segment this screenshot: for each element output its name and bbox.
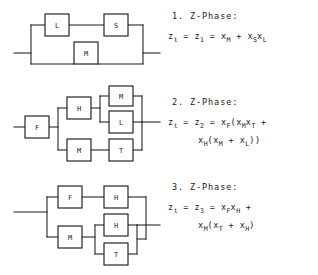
- component-box: L: [45, 14, 69, 36]
- component-box: M: [58, 226, 82, 248]
- component-label: L: [55, 22, 59, 30]
- phase-formula: zt = z3 = xFxH +: [168, 198, 318, 216]
- phase-formula: zt = z2 = xF(xMxT +: [168, 113, 318, 131]
- component-box: H: [67, 97, 91, 119]
- component-label: F: [35, 124, 39, 132]
- component-label: H: [77, 105, 81, 113]
- component-box: H: [104, 214, 128, 236]
- diagram-1: L S M: [14, 14, 160, 64]
- component-label: H: [114, 222, 118, 230]
- component-box: M: [109, 86, 133, 106]
- component-label: L: [119, 119, 123, 127]
- phase-block-2: 2. Z-Phase: zt = z2 = xF(xMxT + xH(xM + …: [168, 96, 318, 149]
- phase-formula: zt = z1 = xM + xSxL: [168, 27, 318, 45]
- phase-formula-continued: xM(xT + xH): [198, 216, 318, 234]
- reliability-block-diagram-figure: L S M: [0, 0, 318, 275]
- component-box: H: [104, 186, 128, 208]
- component-box: L: [109, 111, 133, 133]
- component-label: M: [77, 147, 81, 155]
- component-box: M: [74, 42, 98, 64]
- component-label: M: [119, 93, 123, 101]
- component-box: F: [58, 186, 82, 208]
- phase-heading: 1. Z-Phase:: [172, 10, 318, 22]
- diagram-canvas: L S M: [0, 0, 162, 275]
- phase-heading: 3. Z-Phase:: [172, 181, 318, 193]
- component-box: T: [104, 243, 128, 265]
- component-box: S: [104, 14, 128, 36]
- component-box: F: [25, 116, 49, 138]
- diagram-column: L S M: [0, 0, 162, 275]
- component-label: F: [68, 194, 72, 202]
- component-label: M: [84, 50, 88, 58]
- diagram-3: F H M H T: [14, 186, 160, 265]
- formula-column: 1. Z-Phase: zt = z1 = xM + xSxL 2. Z-Pha…: [162, 0, 318, 275]
- phase-block-3: 3. Z-Phase: zt = z3 = xFxH + xM(xT + xH): [168, 181, 318, 234]
- component-label: H: [114, 194, 118, 202]
- diagram-2: F H M L M: [14, 86, 160, 161]
- phase-block-1: 1. Z-Phase: zt = z1 = xM + xSxL: [168, 10, 318, 45]
- component-box: M: [67, 139, 91, 161]
- phase-formula-continued: xH(xM + xL)): [198, 131, 318, 149]
- phase-heading: 2. Z-Phase:: [172, 96, 318, 108]
- component-box: T: [109, 139, 133, 161]
- component-label: S: [114, 22, 118, 30]
- component-label: M: [68, 234, 72, 242]
